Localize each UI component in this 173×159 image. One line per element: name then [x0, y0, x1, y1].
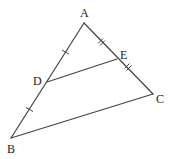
label-b: B	[7, 142, 15, 156]
segment-ac	[84, 23, 153, 94]
label-a: A	[80, 6, 89, 20]
diagram-svg: A E D C B	[0, 0, 173, 159]
tick-mark-ad	[62, 50, 69, 54]
label-e: E	[120, 48, 127, 62]
label-c: C	[156, 92, 164, 106]
segment-ab	[11, 23, 84, 138]
label-d: D	[33, 74, 42, 88]
triangle-diagram: A E D C B	[0, 0, 173, 159]
segment-bc	[11, 94, 153, 138]
segment-de	[47, 59, 117, 82]
